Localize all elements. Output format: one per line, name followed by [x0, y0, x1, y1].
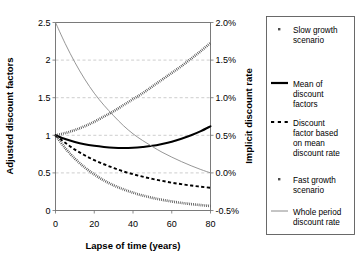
- legend-label-text: discount rate: [293, 218, 340, 227]
- y2-axis-title: Implicit discount rate: [243, 68, 254, 164]
- y2-tick-label: 2.0%: [216, 18, 237, 28]
- y-tick-label: 2: [45, 55, 50, 65]
- x-tick-label: 20: [89, 219, 99, 229]
- y2-tick-label: 1.0%: [216, 93, 237, 103]
- y-tick-label: 0.5: [38, 168, 51, 178]
- x-tick-label: 80: [205, 219, 215, 229]
- x-tick-label: 40: [128, 219, 138, 229]
- legend-label-text: Slow growth: [293, 26, 338, 35]
- y2-tick-label: 0.0%: [216, 168, 237, 178]
- y-tick-label: 0: [45, 206, 50, 216]
- y2-tick-label: 0.5%: [216, 131, 237, 141]
- legend-label-text: Discount: [293, 119, 326, 128]
- legend-label-text: discount rate: [293, 149, 340, 158]
- y-tick-label: 1: [45, 131, 50, 141]
- legend-label-text: Mean of: [293, 80, 323, 89]
- y-tick-label: 2.5: [38, 18, 51, 28]
- legend-label-text: scenario: [293, 36, 324, 45]
- legend-marker-dot: [278, 28, 280, 30]
- legend-label-text: discount: [293, 90, 324, 99]
- legend-label-text: scenario: [293, 186, 324, 195]
- y-tick-label: 1.5: [38, 93, 51, 103]
- y-axis-title: Adjusted discount factors: [4, 57, 15, 174]
- legend-label-text: Fast growth: [293, 176, 336, 185]
- chart-figure: 00.511.522.5 -0.5%0.0%0.5%1.0%1.5%2.0% 0…: [0, 0, 361, 268]
- legend-label-text: on mean: [293, 139, 325, 148]
- y2-tick-label: -0.5%: [216, 206, 240, 216]
- discount-factors-chart: 00.511.522.5 -0.5%0.0%0.5%1.0%1.5%2.0% 0…: [0, 0, 361, 268]
- x-tick-label: 0: [53, 219, 58, 229]
- y2-tick-label: 1.5%: [216, 55, 237, 65]
- x-axis-title: Lapse of time (years): [85, 240, 180, 251]
- legend-label-text: factor based: [293, 129, 339, 138]
- legend-label-text: factors: [293, 100, 318, 109]
- legend-marker-dot: [278, 178, 280, 180]
- x-tick-label: 60: [167, 219, 177, 229]
- legend-label-text: Whole period: [293, 208, 342, 217]
